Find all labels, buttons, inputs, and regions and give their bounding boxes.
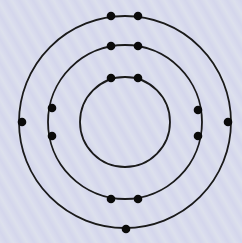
electron-dot [134, 74, 143, 83]
electron-dot [122, 225, 131, 234]
electron-dot [224, 118, 233, 127]
electron-dot [134, 195, 143, 204]
shell-1-orbit [80, 77, 170, 167]
electron-dot [48, 104, 57, 113]
electron-dot [194, 106, 203, 115]
shell-3-orbit [19, 16, 231, 228]
electron-dot [107, 12, 116, 21]
bohr-model-svg [0, 0, 242, 243]
electron-dot [107, 74, 116, 83]
electron-dot [134, 42, 143, 51]
electron-dot [18, 118, 27, 127]
electron-dot [134, 12, 143, 21]
electron-dot [48, 132, 57, 141]
electron-dot [107, 195, 116, 204]
bohr-diagram [0, 0, 242, 243]
electron-dot [107, 42, 116, 51]
shell-2-orbit [48, 45, 202, 199]
electron-dot [194, 132, 203, 141]
